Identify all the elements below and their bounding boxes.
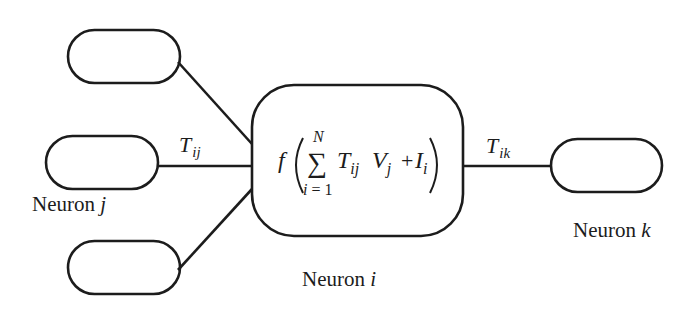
label-text: Neuron [32, 192, 95, 216]
weight-subscript: ij [192, 144, 200, 160]
activation-formula: f N ∑ i = 1 Tij Vj + Ii [278, 128, 437, 198]
formula-left-paren [296, 138, 303, 193]
formula-term-tij: Tij [337, 147, 360, 178]
term-subscript: i [423, 160, 427, 177]
weight-symbol: T [486, 133, 500, 158]
label-variable: i [370, 267, 376, 291]
term-subscript: j [385, 160, 392, 178]
formula-plus: + [401, 148, 413, 173]
label-variable: k [641, 218, 651, 242]
label-text: Neuron [302, 267, 365, 291]
label-neuron-k: Neuron k [573, 218, 651, 242]
weight-symbol: T [179, 132, 193, 157]
label-text: Neuron [573, 218, 636, 242]
sum-upper-limit: N [312, 128, 325, 145]
weight-label-tij: Tij [179, 132, 201, 160]
neuron-diagram: Tij Tik Neuron j Neuron i Neuron k f N ∑… [0, 0, 691, 316]
neuron-node-top [68, 30, 180, 83]
neuron-node-k [551, 139, 662, 192]
edge-bottom-to-neuron-i [178, 189, 252, 270]
term-subscript: ij [350, 160, 359, 178]
weight-subscript: ik [499, 145, 510, 161]
formula-function: f [278, 147, 288, 173]
weight-label-tik: Tik [486, 133, 510, 161]
formula-term-vj: Vj [372, 147, 392, 178]
sum-start: = 1 [307, 181, 332, 198]
label-neuron-j: Neuron j [32, 192, 106, 216]
neuron-node-j [46, 136, 158, 189]
formula-right-paren [430, 138, 437, 193]
sum-symbol: ∑ [307, 147, 327, 178]
sum-lower-limit: i = 1 [303, 181, 332, 198]
neuron-node-bottom [68, 241, 180, 294]
formula-term-ii: Ii [414, 147, 427, 177]
label-neuron-i: Neuron i [302, 267, 376, 291]
